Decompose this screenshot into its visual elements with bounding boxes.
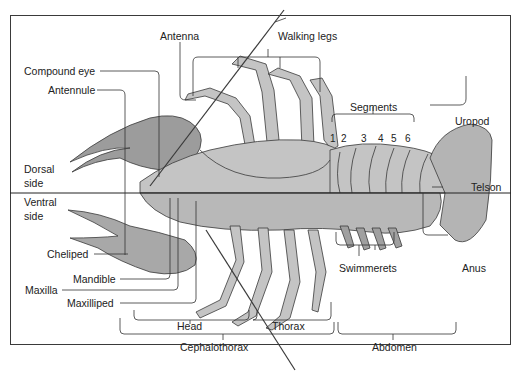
label-telson: Telson bbox=[471, 181, 501, 193]
label-ventral-side: side bbox=[24, 210, 43, 222]
label-swimmerets: Swimmerets bbox=[339, 262, 397, 274]
ventral-body bbox=[140, 193, 441, 233]
segment-number-3: 3 bbox=[361, 133, 367, 144]
label-uropod: Uropod bbox=[455, 115, 489, 127]
label-maxilliped: Maxilliped bbox=[67, 297, 114, 309]
segment-number-5: 5 bbox=[391, 133, 397, 144]
crayfish-illustration bbox=[0, 0, 525, 373]
label-mandible: Mandible bbox=[73, 273, 116, 285]
label-anus: Anus bbox=[462, 262, 486, 274]
label-antennule: Antennule bbox=[48, 84, 95, 96]
segment-number-1: 1 bbox=[330, 133, 336, 144]
label-antenna: Antenna bbox=[160, 30, 199, 42]
label-dorsal: Dorsal bbox=[24, 163, 54, 175]
label-head: Head bbox=[177, 320, 202, 332]
label-segments: Segments bbox=[350, 101, 397, 113]
label-walking-legs: Walking legs bbox=[278, 30, 337, 42]
walking-legs-ventral bbox=[196, 226, 326, 330]
label-cephalothorax: Cephalothorax bbox=[180, 341, 248, 353]
label-maxilla: Maxilla bbox=[25, 284, 58, 296]
label-abdomen: Abdomen bbox=[372, 341, 417, 353]
segment-number-6: 6 bbox=[405, 133, 411, 144]
label-thorax: Thorax bbox=[272, 320, 305, 332]
label-dorsal-side: side bbox=[24, 177, 43, 189]
label-ventral: Ventral bbox=[24, 196, 57, 208]
segment-number-4: 4 bbox=[378, 133, 384, 144]
walking-legs-dorsal bbox=[185, 56, 338, 152]
label-compound-eye: Compound eye bbox=[24, 65, 95, 77]
label-cheliped: Cheliped bbox=[47, 248, 88, 260]
segment-number-2: 2 bbox=[341, 133, 347, 144]
